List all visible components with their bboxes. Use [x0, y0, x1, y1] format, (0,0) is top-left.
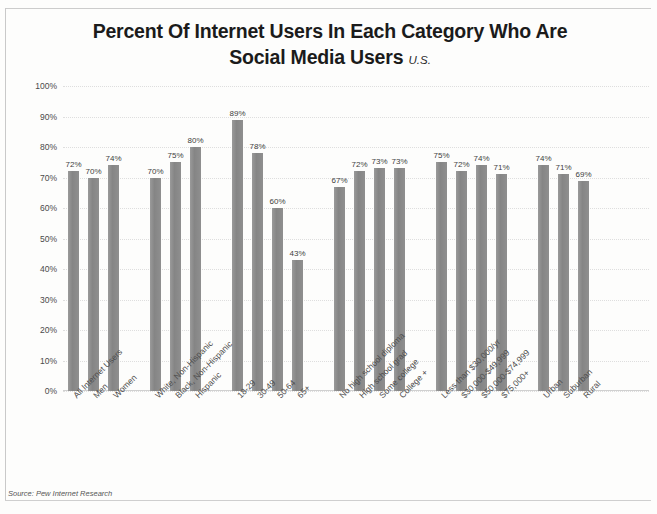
- bar-value-label: 73%: [391, 157, 407, 166]
- bar-item[interactable]: 74%: [108, 86, 119, 391]
- bar-item[interactable]: 60%: [272, 86, 283, 391]
- bar-value-label: 72%: [65, 160, 81, 169]
- y-axis-tick-label: 80%: [40, 142, 57, 152]
- chart-title-line2: Social Media Users: [229, 46, 403, 68]
- chart-page: Percent Of Internet Users In Each Catego…: [0, 0, 657, 514]
- bar[interactable]: [170, 162, 181, 391]
- bar-value-label: 60%: [269, 197, 285, 206]
- y-axis-tick-label: 40%: [40, 264, 57, 274]
- bar[interactable]: [68, 171, 79, 391]
- bar-value-label: 69%: [575, 170, 591, 179]
- bar[interactable]: [150, 178, 161, 392]
- y-axis-tick-label: 20%: [40, 325, 57, 335]
- bar[interactable]: [558, 174, 569, 391]
- bar[interactable]: [232, 120, 243, 391]
- bar-item[interactable]: 75%: [170, 86, 181, 391]
- y-axis-tick-label: 70%: [40, 173, 57, 183]
- bar[interactable]: [252, 153, 263, 391]
- bar-item[interactable]: 72%: [354, 86, 365, 391]
- bar-series: 72%70%74%70%75%80%89%78%60%43%67%72%73%7…: [63, 86, 649, 391]
- bar[interactable]: [272, 208, 283, 391]
- bar-value-label: 74%: [535, 154, 551, 163]
- bar-item[interactable]: 70%: [150, 86, 161, 391]
- y-axis-tick-label: 60%: [40, 203, 57, 213]
- bar[interactable]: [354, 171, 365, 391]
- bar-item[interactable]: 78%: [252, 86, 263, 391]
- bar-value-label: 72%: [351, 160, 367, 169]
- bar-item[interactable]: 74%: [538, 86, 549, 391]
- y-axis-tick-label: 90%: [40, 112, 57, 122]
- bar-value-label: 43%: [289, 249, 305, 258]
- y-axis-tick-label: 100%: [35, 81, 57, 91]
- bar[interactable]: [334, 187, 345, 391]
- bar-value-label: 67%: [331, 176, 347, 185]
- bar-item[interactable]: 70%: [88, 86, 99, 391]
- page-frame-top: [5, 8, 651, 9]
- x-axis-labels: All Internet UsersMenWomenWhite, Non-His…: [63, 393, 657, 493]
- bar-item[interactable]: 75%: [436, 86, 447, 391]
- bar-value-label: 70%: [147, 167, 163, 176]
- bar-value-label: 71%: [555, 163, 571, 172]
- chart-title: Percent Of Internet Users In Each Catego…: [50, 18, 610, 73]
- page-frame-bottom: [5, 500, 651, 501]
- bar[interactable]: [436, 162, 447, 391]
- bar[interactable]: [538, 165, 549, 391]
- plot-area: 0%10%20%30%40%50%60%70%80%90%100% 72%70%…: [63, 86, 649, 391]
- bar-value-label: 89%: [229, 109, 245, 118]
- page-frame-left: [5, 8, 6, 500]
- y-axis-tick-label: 0%: [45, 386, 57, 396]
- chart-subtitle: U.S.: [409, 54, 431, 66]
- y-axis-tick-label: 50%: [40, 234, 57, 244]
- bar[interactable]: [456, 171, 467, 391]
- bar-value-label: 75%: [433, 151, 449, 160]
- bar-value-label: 70%: [85, 167, 101, 176]
- bar[interactable]: [578, 181, 589, 391]
- bar-value-label: 71%: [493, 163, 509, 172]
- bar-value-label: 72%: [453, 160, 469, 169]
- chart-title-line1: Percent Of Internet Users In Each Catego…: [93, 20, 568, 42]
- bar-item[interactable]: 69%: [578, 86, 589, 391]
- y-axis-tick-label: 30%: [40, 295, 57, 305]
- y-axis-tick-label: 10%: [40, 356, 57, 366]
- bar-value-label: 74%: [105, 154, 121, 163]
- bar[interactable]: [292, 260, 303, 391]
- bar-item[interactable]: 72%: [68, 86, 79, 391]
- bar-value-label: 73%: [371, 157, 387, 166]
- bar-item[interactable]: 43%: [292, 86, 303, 391]
- bar-value-label: 74%: [473, 154, 489, 163]
- bar-value-label: 78%: [249, 142, 265, 151]
- bar-item[interactable]: 72%: [456, 86, 467, 391]
- bar[interactable]: [88, 178, 99, 392]
- source-note: Source: Pew Internet Research: [8, 489, 112, 498]
- bar-value-label: 80%: [187, 136, 203, 145]
- bar-item[interactable]: 67%: [334, 86, 345, 391]
- bar-value-label: 75%: [167, 151, 183, 160]
- bar-item[interactable]: 71%: [558, 86, 569, 391]
